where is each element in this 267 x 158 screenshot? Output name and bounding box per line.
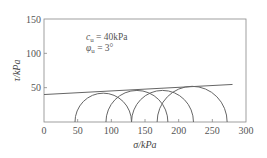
x-tick-label: 250 [205, 125, 220, 136]
mohr-circle-chart: 05010015020025030050100150σ/kPaτ/kPacu =… [0, 0, 267, 158]
plot-frame [44, 19, 246, 122]
annotation-phi: φu = 3° [86, 43, 114, 55]
x-tick-label: 50 [73, 125, 83, 136]
y-tick-label: 100 [26, 48, 41, 59]
mohr-circle [106, 90, 168, 122]
y-tick-label: 50 [31, 82, 41, 93]
y-axis-label: τ/kPa [11, 60, 22, 82]
strength-envelope-line [44, 84, 233, 94]
x-tick-label: 150 [138, 125, 153, 136]
x-tick-label: 300 [239, 125, 254, 136]
y-tick-label: 150 [26, 14, 41, 25]
mohr-circle [132, 90, 194, 122]
x-tick-label: 100 [104, 125, 119, 136]
mohr-circle [75, 93, 132, 122]
x-tick-label: 0 [42, 125, 47, 136]
x-axis-label: σ/kPa [133, 139, 156, 150]
x-tick-label: 200 [171, 125, 186, 136]
